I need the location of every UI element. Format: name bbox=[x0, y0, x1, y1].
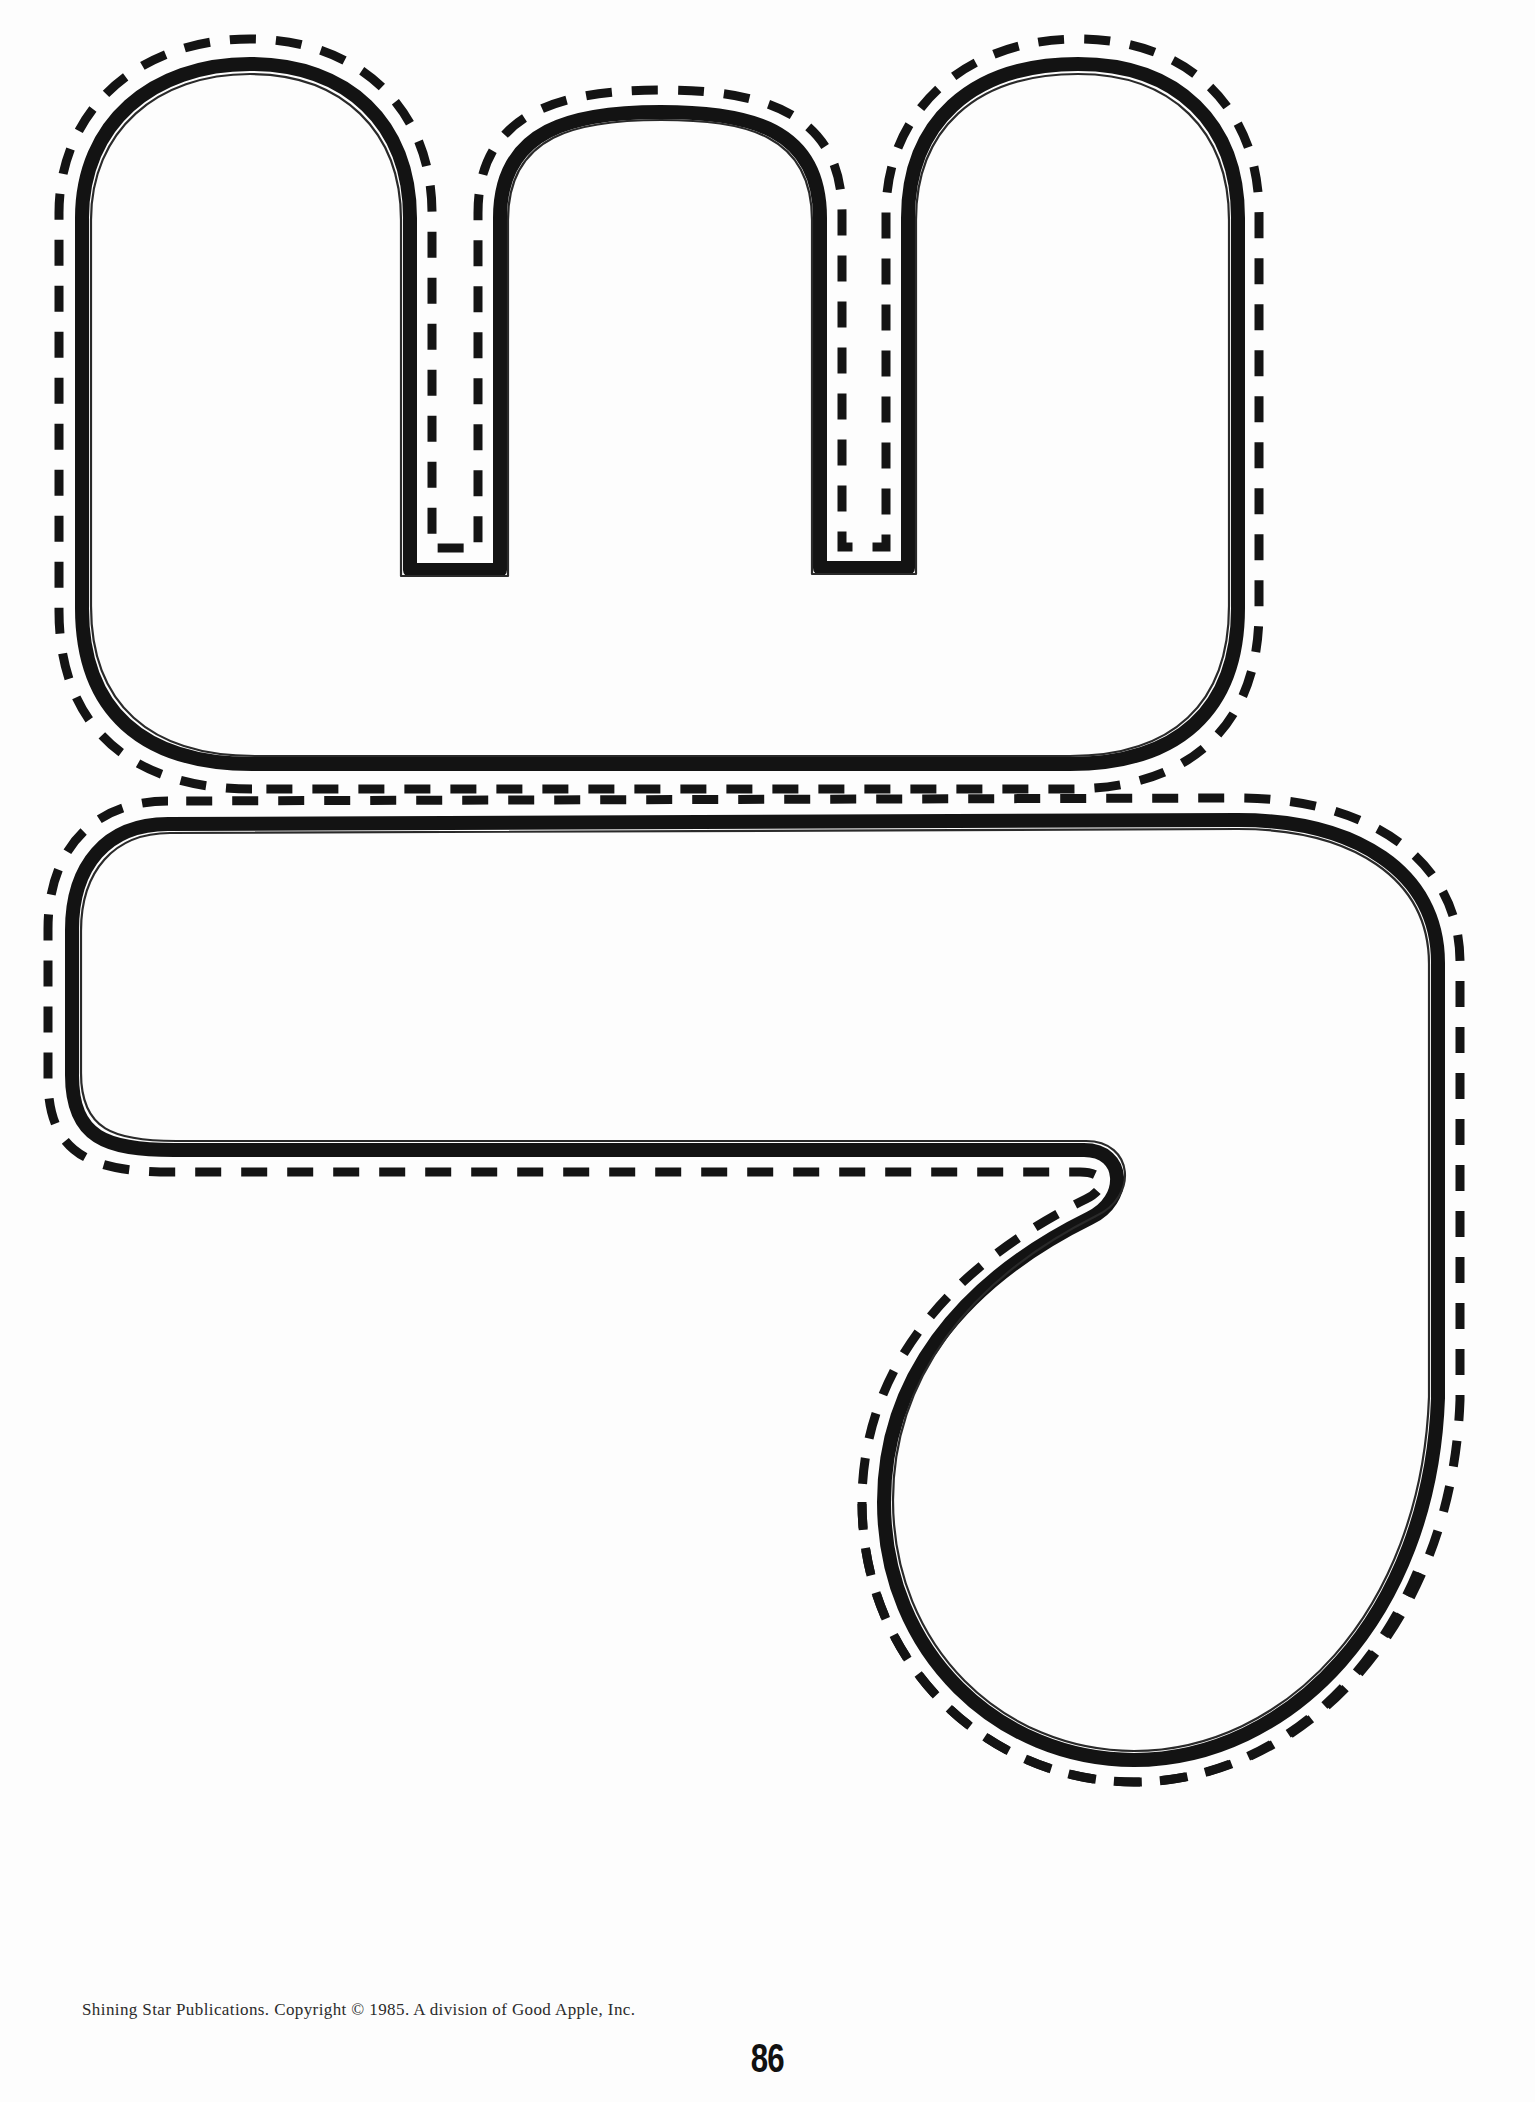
page-number-value: 86 bbox=[751, 2036, 784, 2081]
letter-g-tail-dashed bbox=[862, 1502, 1422, 1782]
letter-m-outline bbox=[82, 64, 1238, 764]
letter-m-dashed-cut-line bbox=[59, 39, 1259, 789]
copyright-credit-line: Shining Star Publications. Copyright © 1… bbox=[82, 2000, 635, 2020]
letter-g-dashed-cut-line bbox=[48, 798, 1460, 1782]
letter-g-outline bbox=[72, 820, 1438, 1760]
shape-letter-g[interactable] bbox=[48, 798, 1460, 1782]
letter-g-descender-tail bbox=[862, 1502, 1422, 1782]
page-number: 86 bbox=[0, 2036, 1535, 2081]
letter-cutout-artboard bbox=[0, 0, 1535, 2102]
shape-letter-m[interactable] bbox=[59, 39, 1259, 789]
letter-g-inner-trace bbox=[81, 829, 1429, 1751]
letter-m-inner-trace bbox=[91, 74, 1229, 756]
worksheet-page: Shining Star Publications. Copyright © 1… bbox=[0, 0, 1535, 2102]
